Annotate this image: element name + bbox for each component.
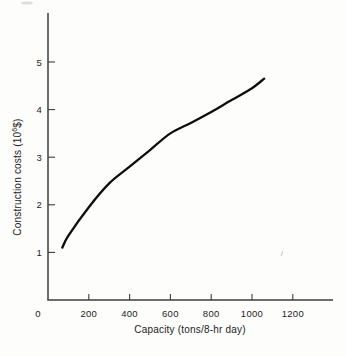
x-tick-label: 600 (162, 308, 179, 319)
y-tick-label: 3 (36, 152, 42, 163)
axes-layer (47, 13, 333, 300)
x-tick-label: 400 (121, 308, 138, 319)
chart-svg: 02004006008001000120012345 (0, 0, 346, 356)
x-tick-label: 1200 (282, 308, 304, 319)
construction-cost-curve (62, 79, 264, 248)
ticks-layer (48, 62, 293, 300)
y-tick-label: 2 (36, 199, 42, 210)
y-tick-label: 5 (36, 57, 42, 68)
y-tick-label: 1 (36, 247, 42, 258)
x-tick-label: 1000 (241, 308, 263, 319)
y-axis-label: Construction costs (106$) (11, 118, 23, 235)
x-tick-label: 800 (203, 308, 220, 319)
y-axis-label-text: Construction costs (10 (12, 132, 23, 236)
x-axis-label: Capacity (tons/8-hr day) (134, 324, 246, 335)
tick-labels-layer: 02004006008001000120012345 (35, 57, 304, 319)
scan-artifact (21, 1, 33, 4)
figure-construction-costs-vs-capacity: 02004006008001000120012345 Capacity (ton… (0, 0, 346, 356)
scan-artifact (281, 251, 283, 256)
scan-artifacts (21, 1, 283, 256)
x-tick-label: 0 (35, 308, 41, 319)
x-tick-label: 200 (80, 308, 97, 319)
y-axis-label-suffix: $) (12, 118, 23, 127)
y-axis-label-superscript: 6 (11, 128, 18, 132)
curve-layer (62, 79, 264, 248)
y-tick-label: 4 (36, 104, 42, 115)
